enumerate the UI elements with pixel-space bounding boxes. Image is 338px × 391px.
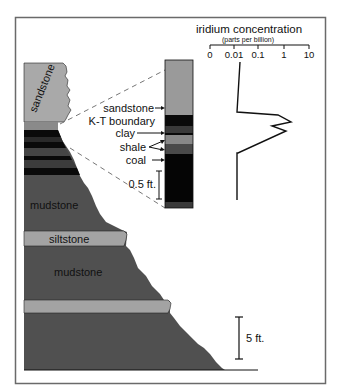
kt-light-band [24,122,58,130]
label-clay: clay [115,127,135,139]
kt-boundary-diagram: sandstone mudstone siltstone mudstone sa… [0,0,338,391]
tick-label-10: 10 [304,49,315,60]
detail-coal [165,154,193,202]
chart-title: iridium concentration [196,23,302,35]
light-band-lower [24,300,171,313]
detail-kt-boundary [165,115,193,126]
label-mudstone-lower: mudstone [54,266,102,278]
detail-light-band [165,133,193,135]
label-kt-boundary: K-T boundary [89,115,156,127]
dark-band-3 [24,160,77,168]
chart-subtitle: (parts per billion) [222,36,274,44]
coal-band-2 [24,142,66,148]
detail-base-band [165,202,193,208]
label-scale-outcrop: 5 ft. [246,332,264,344]
label-coal: coal [126,154,146,166]
detail-shale-upper [165,135,193,144]
dark-band-2 [24,148,70,156]
detail-sandstone [165,60,193,115]
tick-label-0.1: 0.1 [251,49,264,60]
label-scale-detail: 0.5 ft. [128,178,156,190]
coal-band-1 [24,130,61,137]
detail-clay [165,126,193,133]
label-mudstone-upper: mudstone [30,199,78,211]
tick-label-0.01: 0.01 [225,49,244,60]
label-detail-sandstone: sandstone [103,102,154,114]
dark-band-1 [24,137,63,142]
coal-band-3 [24,156,72,160]
coal-band-4 [24,168,80,175]
label-siltstone: siltstone [49,233,89,245]
detail-shale-lower [165,144,193,154]
label-shale: shale [120,141,146,153]
tick-label-0: 0 [207,49,212,60]
tick-label-1: 1 [281,49,286,60]
